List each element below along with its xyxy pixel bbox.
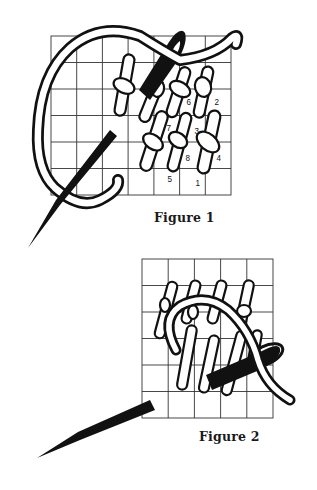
stitch-number: 6 [186,97,191,107]
stitch-number: 1 [195,178,200,188]
stitch-number: 8 [185,153,190,163]
stitch-number: 2 [214,97,219,107]
figure-1-caption: Figure 1 [154,210,215,225]
figure-1-illustration [0,0,317,490]
figure-2-needle [37,400,155,458]
figure-2-caption: Figure 2 [199,429,260,444]
stitch-number: 5 [167,174,172,184]
stitch-number: 7 [166,123,171,133]
stitch-instruction-diagram: 6 2 7 3 8 4 5 1 Figure 1 Figure 2 [0,0,317,490]
stitch-number: 3 [194,126,199,136]
stitch-number: 4 [216,153,221,163]
